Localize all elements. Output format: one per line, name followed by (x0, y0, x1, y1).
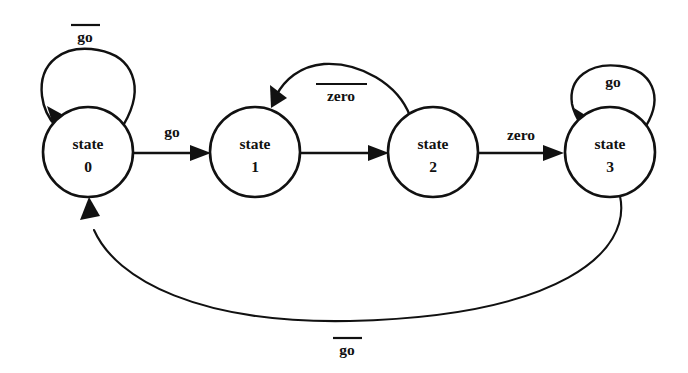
edge-state2-to-state3 (478, 145, 564, 161)
edge-label-state0-self-text: go (77, 28, 93, 45)
state-1-circle[interactable] (210, 107, 300, 197)
state-0-circle[interactable] (43, 107, 133, 197)
state-1-label-line2: 1 (251, 158, 259, 175)
state-diagram: state 0 state 1 state 2 state 3 go go ze (0, 0, 688, 373)
edge-state3-to-state0 (80, 196, 621, 321)
edge-state0-to-state1 (133, 145, 211, 161)
state-2-circle[interactable] (388, 107, 478, 197)
edge-label-state2-to-state1: zero (316, 84, 367, 104)
state-2-label-line2: 2 (429, 158, 437, 175)
edge-label-state2-to-state3-text: zero (507, 126, 535, 143)
edge-state2-to-state1-arrowhead (270, 85, 287, 108)
state-node-0[interactable]: state 0 (43, 107, 133, 197)
edge-label-state2-to-state1-text: zero (327, 87, 355, 104)
state-3-circle[interactable] (565, 107, 655, 197)
state-node-3[interactable]: state 3 (565, 107, 655, 197)
edge-state1-to-state2-arrowhead (368, 145, 389, 161)
edge-label-state2-to-state3: zero (507, 126, 535, 143)
state-node-2[interactable]: state 2 (388, 107, 478, 197)
state-2-label-line1: state (418, 135, 449, 152)
state-3-label-line2: 3 (606, 158, 614, 175)
edge-state0-to-state1-arrowhead (190, 145, 211, 161)
edge-label-state0-to-state1-text: go (164, 123, 180, 140)
edge-label-state3-to-state0-text: go (339, 341, 355, 358)
edge-state3-to-state0-path (94, 196, 621, 321)
edge-state1-to-state2 (300, 145, 389, 161)
edge-label-state3-self: go (605, 73, 621, 90)
state-0-label-line1: state (73, 135, 104, 152)
edge-label-state3-to-state0: go (333, 338, 362, 358)
state-0-label-line2: 0 (84, 158, 92, 175)
edge-label-state3-self-text: go (605, 73, 621, 90)
edge-label-state0-self: go (71, 25, 100, 45)
state-1-label-line1: state (240, 135, 271, 152)
edge-state2-to-state3-arrowhead (543, 145, 564, 161)
edge-label-state0-to-state1: go (164, 123, 180, 140)
state-3-label-line1: state (595, 135, 626, 152)
edge-state3-to-state0-arrowhead (80, 197, 100, 220)
fsm-canvas: state 0 state 1 state 2 state 3 go go ze (0, 0, 688, 373)
state-node-1[interactable]: state 1 (210, 107, 300, 197)
